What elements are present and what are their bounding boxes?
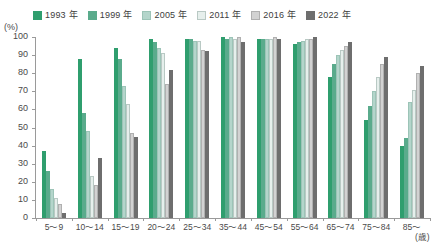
- y-axis-tick: 20: [32, 182, 35, 183]
- x-axis-tick: [108, 218, 109, 221]
- bar-group: [36, 37, 72, 218]
- x-axis-category-label: 20〜24: [143, 222, 179, 233]
- y-axis-tick-label: 20: [18, 176, 28, 187]
- y-axis-tick-label: 0: [23, 212, 28, 223]
- bar-group: [358, 37, 394, 218]
- legend-item[interactable]: 1999 年: [88, 11, 133, 20]
- legend-swatch-icon: [251, 11, 260, 20]
- x-axis-tick: [215, 218, 216, 221]
- x-axis-tick: [287, 218, 288, 221]
- y-axis-tick: 0: [32, 218, 35, 219]
- legend-swatch-icon: [306, 11, 315, 20]
- x-axis-category-label: 25〜34: [179, 222, 215, 233]
- bar[interactable]: [313, 37, 317, 218]
- bar[interactable]: [205, 51, 209, 218]
- bar-group: [72, 37, 108, 218]
- x-axis-category-label: 45〜54: [251, 222, 287, 233]
- x-axis-category-label: 10〜14: [72, 222, 108, 233]
- bar[interactable]: [98, 158, 102, 218]
- x-axis-tick: [323, 218, 324, 221]
- y-axis-tick-label: 80: [18, 67, 28, 78]
- x-axis-category-label: 5〜9: [36, 222, 72, 233]
- bar-group: [251, 37, 287, 218]
- legend-item-label: 2011 年: [209, 11, 241, 20]
- bar-chart: 1993 年1999 年2005 年2011 年2016 年2022 年 (%)…: [0, 0, 444, 250]
- plot-area: 0102030405060708090100: [35, 37, 430, 219]
- legend-swatch-icon: [142, 11, 151, 20]
- legend-item[interactable]: 2016 年: [251, 11, 296, 20]
- y-axis-tick-label: 70: [18, 85, 28, 96]
- bar[interactable]: [348, 42, 352, 218]
- x-axis-tick: [251, 218, 252, 221]
- y-axis-tick: 80: [32, 73, 35, 74]
- y-axis-tick: 60: [32, 109, 35, 110]
- bar-group: [215, 37, 251, 218]
- x-axis-category-label: 85〜: [394, 222, 430, 233]
- bar-group: [143, 37, 179, 218]
- legend-item-label: 1993 年: [45, 11, 78, 20]
- y-axis-tick-label: 60: [18, 103, 28, 114]
- bar-group: [179, 37, 215, 218]
- y-axis-tick-label: 10: [18, 194, 28, 205]
- bar[interactable]: [241, 42, 245, 218]
- bar[interactable]: [384, 57, 388, 218]
- y-axis-tick: 50: [32, 128, 35, 129]
- x-axis-tick: [394, 218, 395, 221]
- bar[interactable]: [169, 70, 173, 218]
- x-axis-tick: [430, 218, 431, 221]
- bar-group: [287, 37, 323, 218]
- legend-item[interactable]: 2005 年: [142, 11, 187, 20]
- x-axis-tick: [358, 218, 359, 221]
- x-axis-category-label: 55〜64: [287, 222, 323, 233]
- y-axis-tick: 40: [32, 146, 35, 147]
- x-axis-tick: [179, 218, 180, 221]
- y-axis-tick: 10: [32, 200, 35, 201]
- bar-groups: [36, 37, 430, 218]
- x-axis-tick: [143, 218, 144, 221]
- x-axis-category-label: 35〜44: [215, 222, 251, 233]
- y-axis-tick-label: 40: [18, 140, 28, 151]
- legend-item[interactable]: 2011 年: [197, 11, 241, 20]
- y-axis-tick-label: 100: [13, 31, 28, 42]
- legend-item-label: 2016 年: [263, 11, 296, 20]
- bar-group: [323, 37, 359, 218]
- x-axis-tick: [72, 218, 73, 221]
- chart-legend: 1993 年1999 年2005 年2011 年2016 年2022 年: [33, 8, 433, 22]
- x-axis-category-labels: 5〜910〜1415〜1920〜2425〜3435〜4445〜5455〜6465…: [36, 222, 430, 236]
- y-axis-tick-label: 90: [18, 49, 28, 60]
- x-axis-line: [35, 218, 430, 219]
- legend-swatch-icon: [33, 11, 42, 20]
- bar[interactable]: [277, 39, 281, 218]
- bar-group: [108, 37, 144, 218]
- x-axis-category-label: 65〜74: [323, 222, 359, 233]
- x-axis-category-label: 75〜84: [358, 222, 394, 233]
- y-axis-tick-label: 30: [18, 158, 28, 169]
- legend-item-label: 1999 年: [100, 11, 133, 20]
- x-axis-category-label: 15〜19: [108, 222, 144, 233]
- y-axis-tick: 100: [32, 37, 35, 38]
- legend-item-label: 2022 年: [318, 11, 351, 20]
- y-axis-tick: 30: [32, 164, 35, 165]
- legend-swatch-icon: [197, 11, 206, 20]
- legend-item[interactable]: 2022 年: [306, 11, 351, 20]
- y-axis-tick-label: 50: [18, 122, 28, 133]
- y-axis-tick: 70: [32, 91, 35, 92]
- bar[interactable]: [420, 66, 424, 218]
- bar[interactable]: [62, 213, 66, 218]
- legend-swatch-icon: [88, 11, 97, 20]
- y-axis-tick: 90: [32, 55, 35, 56]
- x-axis-tick: [36, 218, 37, 221]
- legend-item-label: 2005 年: [154, 11, 187, 20]
- bar-group: [394, 37, 430, 218]
- legend-item[interactable]: 1993 年: [33, 11, 78, 20]
- bar[interactable]: [134, 137, 138, 218]
